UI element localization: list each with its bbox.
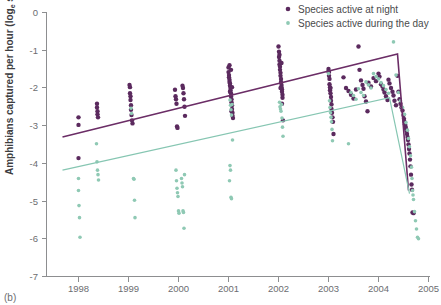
data-point	[182, 211, 186, 215]
data-point	[328, 91, 332, 95]
figure-panel-b: Amphibians captured per hour (loge scale…	[0, 0, 441, 305]
data-point	[407, 137, 411, 141]
y-tick-label-0: 0	[33, 7, 38, 18]
data-point	[331, 132, 335, 136]
y-tick-label-1: -1	[30, 45, 38, 56]
data-point	[352, 94, 356, 98]
y-tick-label-3: -3	[30, 120, 38, 131]
data-point	[349, 91, 353, 95]
data-point	[128, 98, 132, 102]
data-point	[76, 123, 80, 127]
x-ticks: 1998 1999 2000 2001 2002 2003 2004 2005	[68, 277, 439, 295]
data-point	[411, 189, 415, 193]
data-point	[181, 91, 185, 95]
data-point	[281, 125, 285, 129]
data-point	[95, 142, 99, 146]
data-point	[364, 80, 368, 84]
data-point	[128, 85, 132, 89]
data-point	[174, 102, 178, 106]
data-point	[181, 86, 185, 90]
data-point	[404, 121, 408, 125]
data-point	[228, 90, 232, 94]
data-point	[76, 115, 80, 119]
x-tick-label-1998: 1998	[68, 283, 89, 294]
data-point	[230, 197, 234, 201]
data-point	[331, 139, 335, 143]
data-point	[360, 83, 364, 87]
legend-label-night: Species active at night	[298, 4, 398, 15]
y-tick-label-2: -2	[30, 82, 38, 93]
svg-text:Amphibians captured per hour (: Amphibians captured per hour (loge scale…	[4, 0, 16, 175]
data-point	[328, 99, 332, 103]
data-point	[392, 99, 396, 103]
x-tick-label-2004: 2004	[368, 283, 389, 294]
data-point	[359, 91, 363, 95]
data-point	[95, 102, 99, 106]
x-tick-label-2000: 2000	[168, 283, 189, 294]
y-axis-title-main: Amphibians captured per hour (log	[4, 8, 15, 175]
data-point	[130, 121, 134, 125]
data-point	[347, 142, 351, 146]
data-point	[77, 204, 81, 208]
data-point	[96, 115, 100, 119]
axis-lines	[47, 13, 430, 277]
data-point	[359, 78, 363, 82]
data-point	[96, 173, 100, 177]
data-point	[391, 93, 395, 97]
data-point	[229, 168, 233, 172]
data-point	[280, 96, 284, 100]
data-point	[328, 106, 332, 110]
data-point	[229, 68, 233, 72]
y-tick-label-5: -5	[30, 196, 38, 207]
data-point	[382, 84, 386, 88]
data-point	[230, 85, 234, 89]
data-point	[330, 128, 334, 132]
data-point	[327, 72, 331, 76]
scatter-plot: Amphibians captured per hour (loge scale…	[0, 0, 441, 305]
data-point	[384, 88, 388, 92]
data-point	[133, 216, 137, 220]
data-point	[278, 86, 282, 90]
data-point	[387, 81, 391, 85]
data-point	[379, 81, 383, 85]
data-point	[362, 94, 366, 98]
data-point	[410, 165, 414, 169]
data-point	[279, 61, 283, 65]
data-point	[354, 97, 358, 101]
data-point	[96, 168, 100, 172]
data-point	[411, 193, 415, 197]
data-point	[228, 98, 232, 102]
data-point	[387, 91, 391, 95]
data-point	[414, 219, 418, 223]
data-point	[279, 110, 283, 114]
data-point	[408, 145, 412, 149]
data-points-layer	[76, 40, 420, 240]
data-point	[365, 109, 369, 113]
data-point	[132, 177, 136, 181]
data-point	[173, 88, 177, 92]
data-point	[412, 198, 416, 202]
legend-marker-day	[286, 21, 290, 25]
data-point	[328, 86, 332, 90]
data-point	[183, 173, 187, 177]
data-point	[228, 179, 232, 183]
data-point	[183, 114, 187, 118]
data-point	[357, 87, 361, 91]
data-point	[77, 189, 81, 193]
data-point	[180, 177, 184, 181]
data-point	[128, 94, 132, 98]
data-point	[280, 103, 284, 107]
data-point	[95, 105, 99, 109]
data-point	[389, 86, 393, 90]
x-tick-label-2002: 2002	[268, 283, 289, 294]
data-point	[386, 77, 390, 81]
series-day	[77, 40, 421, 240]
data-point	[280, 116, 284, 120]
data-point	[230, 113, 234, 117]
data-point	[78, 235, 82, 239]
y-tick-label-7: -7	[30, 271, 38, 282]
data-point	[76, 156, 80, 160]
x-tick-label-2001: 2001	[218, 283, 239, 294]
night-trend	[63, 54, 409, 191]
data-point	[77, 177, 81, 181]
